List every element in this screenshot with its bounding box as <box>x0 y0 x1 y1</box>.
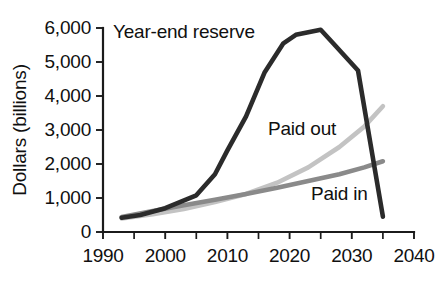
series-label-year-end-reserve: Year-end reserve <box>113 21 255 42</box>
y-tick-label: 0 <box>81 221 91 242</box>
y-tick-label: 5,000 <box>44 51 91 72</box>
x-tick-label: 2040 <box>393 245 434 266</box>
y-tick-label: 1,000 <box>44 187 91 208</box>
y-tick-label: 6,000 <box>44 17 91 38</box>
x-tick-label: 1990 <box>82 245 123 266</box>
x-tick-label: 2010 <box>207 245 248 266</box>
series-label-paid-in: Paid in <box>311 183 368 204</box>
x-tick-label: 2030 <box>331 245 372 266</box>
chart-container: 01,0002,0003,0004,0005,0006,000 Dollars … <box>0 0 438 288</box>
y-axis-title: Dollars (billions) <box>9 64 30 196</box>
y-tick-label: 2,000 <box>44 153 91 174</box>
series-label-paid-out: Paid out <box>268 118 337 139</box>
y-tick-label: 3,000 <box>44 119 91 140</box>
x-tick-label: 2000 <box>145 245 186 266</box>
y-tick-label: 4,000 <box>44 85 91 106</box>
x-tick-label: 2020 <box>269 245 310 266</box>
line-chart: 01,0002,0003,0004,0005,0006,000 Dollars … <box>0 0 438 288</box>
